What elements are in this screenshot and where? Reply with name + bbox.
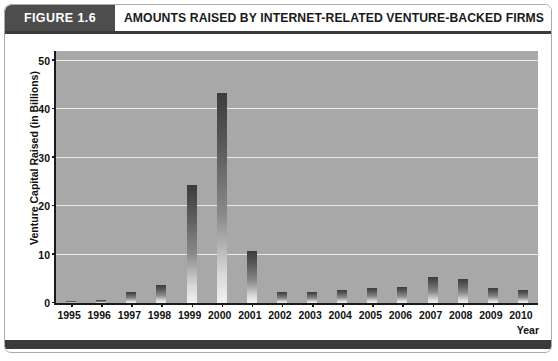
x-tick-mark [433, 303, 435, 307]
x-tick-mark [101, 303, 103, 307]
x-tick-mark [131, 303, 133, 307]
y-tick-mark [52, 302, 56, 304]
x-tick-mark [252, 303, 254, 307]
y-tick-label: 50 [20, 55, 50, 67]
bar-2008 [458, 279, 468, 303]
figure-card: FIGURE 1.6 AMOUNTS RAISED BY INTERNET-RE… [4, 4, 552, 353]
bar-2009 [488, 288, 498, 304]
y-tick-label: 30 [20, 152, 50, 164]
x-tick-mark [71, 303, 73, 307]
y-tick-label: 40 [20, 103, 50, 115]
figure-title: AMOUNTS RAISED BY INTERNET-RELATED VENTU… [115, 5, 552, 31]
bar-2002 [277, 292, 287, 303]
y-tick-mark [52, 108, 56, 110]
x-tick-mark [402, 303, 404, 307]
bar-1997 [126, 292, 136, 303]
x-tick-mark [463, 303, 465, 307]
plot-area [54, 51, 538, 305]
bar-2004 [337, 290, 347, 303]
x-tick-mark [372, 303, 374, 307]
y-tick-mark [52, 205, 56, 207]
y-tick-mark [52, 59, 56, 61]
x-tick-mark [523, 303, 525, 307]
x-tick-label: 2010 [499, 309, 543, 321]
x-tick-mark [493, 303, 495, 307]
x-tick-mark [222, 303, 224, 307]
y-tick-mark [52, 156, 56, 158]
bar-2000 [217, 93, 227, 303]
x-axis-title: Year [517, 324, 539, 336]
figure-number-badge: FIGURE 1.6 [5, 5, 115, 31]
y-tick-mark [52, 253, 56, 255]
bar-2010 [518, 290, 528, 303]
y-tick-label: 20 [20, 200, 50, 212]
x-tick-mark [282, 303, 284, 307]
bar-1998 [156, 285, 166, 303]
bar-2006 [397, 287, 407, 303]
chart-body: Venture Capital Raised (in Billions) 010… [5, 34, 552, 334]
x-tick-mark [342, 303, 344, 307]
y-tick-label: 10 [20, 249, 50, 261]
figure-header: FIGURE 1.6 AMOUNTS RAISED BY INTERNET-RE… [5, 5, 552, 31]
bar-1999 [187, 185, 197, 303]
x-tick-mark [161, 303, 163, 307]
x-tick-mark [312, 303, 314, 307]
y-tick-label: 0 [20, 297, 50, 309]
bar-2005 [367, 288, 377, 303]
bar-2003 [307, 292, 317, 303]
bar-2001 [247, 251, 257, 303]
bar-2007 [428, 277, 438, 303]
x-tick-mark [192, 303, 194, 307]
bars-layer [56, 51, 538, 303]
figure-footer-bar [5, 340, 552, 349]
